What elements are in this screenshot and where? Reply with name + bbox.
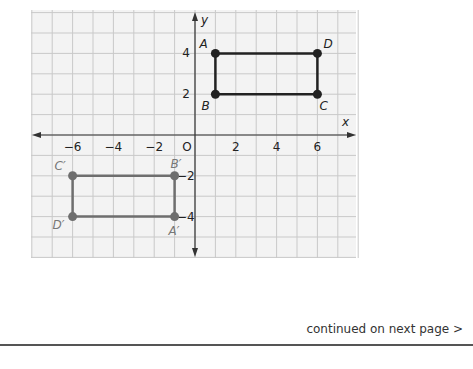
point-label: D′ bbox=[53, 218, 65, 232]
x-tick-label: O bbox=[182, 140, 191, 154]
continued-on-next-page: continued on next page > bbox=[306, 322, 463, 336]
point-label: D bbox=[323, 37, 332, 51]
point-d bbox=[313, 49, 322, 58]
y-tick-label: 2 bbox=[182, 87, 190, 101]
x-tick-label: −6 bbox=[64, 140, 82, 154]
x-tick-label: 4 bbox=[273, 140, 281, 154]
point-c bbox=[313, 90, 322, 99]
x-tick-label: −2 bbox=[145, 140, 163, 154]
point-label: B bbox=[201, 99, 209, 113]
coordinate-plane: −6−4−2O24642−2−4 ADCBB′C′D′A′ x y bbox=[0, 0, 473, 300]
y-tick-label: −2 bbox=[177, 169, 195, 183]
point-d-prime bbox=[68, 212, 77, 221]
x-tick-label: 2 bbox=[232, 140, 240, 154]
point-c-prime bbox=[68, 171, 77, 180]
page-divider bbox=[0, 344, 473, 346]
point-label: A bbox=[198, 37, 207, 51]
point-label: B′ bbox=[171, 157, 182, 171]
point-label: C bbox=[319, 99, 328, 113]
point-b-prime bbox=[170, 171, 179, 180]
y-axis-label: y bbox=[200, 13, 209, 27]
point-a bbox=[211, 49, 220, 58]
point-label: C′ bbox=[55, 159, 66, 173]
y-tick-label: −4 bbox=[177, 210, 195, 224]
x-tick-label: 6 bbox=[314, 140, 322, 154]
x-tick-label: −4 bbox=[105, 140, 123, 154]
point-label: A′ bbox=[168, 224, 180, 238]
point-b bbox=[211, 90, 220, 99]
point-a-prime bbox=[170, 212, 179, 221]
y-tick-label: 4 bbox=[182, 46, 190, 60]
x-axis-label: x bbox=[341, 115, 350, 129]
